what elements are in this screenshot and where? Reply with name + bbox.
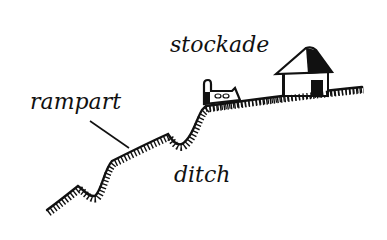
stockade-structure-icon	[204, 80, 240, 104]
label-ditch: ditch	[174, 164, 230, 186]
rampart-leader-line	[90, 121, 129, 148]
roundhouse-hut-icon	[276, 47, 332, 96]
label-rampart: rampart	[30, 91, 121, 113]
label-stockade: stockade	[170, 34, 269, 56]
